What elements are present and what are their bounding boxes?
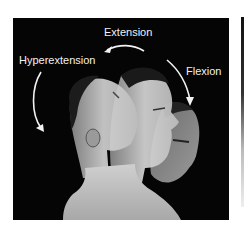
flexion-label: Flexion: [186, 66, 221, 77]
extension-label: Extension: [104, 27, 152, 38]
extension-arrow: [104, 46, 144, 53]
photo-panel: Extension Hyperextension Flexion: [13, 18, 229, 220]
adjacent-image-edge: [241, 17, 244, 207]
head-composite-illustration: [13, 18, 229, 220]
hyperextension-label: Hyperextension: [19, 55, 95, 66]
hyperextension-arrow: [34, 72, 45, 132]
